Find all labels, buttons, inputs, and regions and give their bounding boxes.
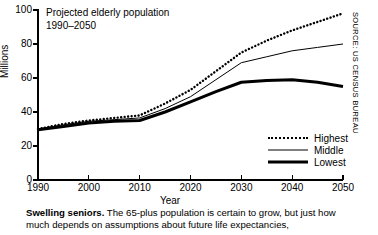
caption-lead: Swelling seniors. [26, 207, 104, 218]
series-line-lowest [38, 80, 343, 130]
chart-legend: Highest Middle Lowest [268, 132, 364, 168]
x-tick-label: 1990 [18, 182, 58, 193]
y-tick-labels: 020406080100 [4, 0, 32, 190]
legend-item-middle: Middle [268, 144, 364, 156]
x-tick-labels: 1990200020102020203020402050 [0, 182, 378, 196]
source-credit: SOURCE: US CENSUS BUREAU [351, 12, 360, 134]
x-tick-marks [38, 175, 343, 180]
legend-item-highest: Highest [268, 132, 364, 144]
y-tick-label: 60 [6, 73, 32, 83]
figure: Millions 020406080100 199020002010202020… [0, 0, 378, 235]
y-tick-label: 20 [6, 141, 32, 151]
x-tick-label: 2040 [272, 182, 312, 193]
y-tick-marks [33, 10, 38, 180]
legend-swatch-thin-line-icon [268, 145, 308, 155]
series-line-middle [38, 44, 343, 129]
legend-item-lowest: Lowest [268, 156, 364, 168]
chart-title: Projected elderly population 1990–2050 [46, 7, 169, 32]
x-axis-label: Year [0, 195, 340, 206]
x-tick-label: 2020 [171, 182, 211, 193]
x-tick-label: 2010 [120, 182, 160, 193]
y-tick-label: 100 [6, 5, 32, 15]
x-tick-label: 2030 [221, 182, 261, 193]
legend-label-lowest: Lowest [308, 157, 346, 168]
y-tick-label: 80 [6, 39, 32, 49]
figure-caption: Swelling seniors. The 65-plus population… [26, 207, 344, 232]
legend-swatch-thick-line-icon [268, 157, 308, 167]
legend-swatch-dotted-line-icon [268, 133, 308, 143]
legend-label-middle: Middle [308, 145, 343, 156]
x-tick-label: 2000 [69, 182, 109, 193]
x-tick-label: 2050 [323, 182, 363, 193]
y-tick-label: 40 [6, 107, 32, 117]
legend-label-highest: Highest [308, 133, 348, 144]
